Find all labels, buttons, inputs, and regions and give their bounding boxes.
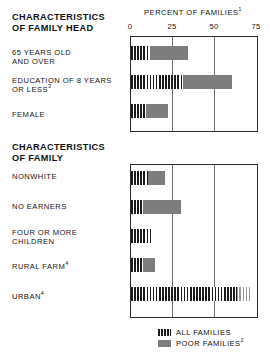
tick-label-50: 50 [209,22,218,31]
panel-1-heading-line-1: CHARACTERISTICS [0,12,126,23]
panel-1-plot-area [130,36,258,132]
row-label-65-years-old: 65 YEARS OLD AND OVER [12,48,126,66]
row-label-line-1: NO EARNERS [12,202,126,211]
row-label-line-1: URBAN4 [12,292,126,301]
legend-item-poor-families: POOR FAMILIES2 [158,338,244,348]
panel-1-heading: CHARACTERISTICS OF FAMILY HEAD [0,12,126,33]
row-label-line-1: 65 YEARS OLD [12,48,126,57]
row-label-rural-farm: RURAL FARM4 [12,262,126,271]
row-label-line-1: NONWHITE [12,172,126,181]
bar-all-families [131,258,143,272]
row-label-urban: URBAN4 [12,292,126,301]
row-label-line-1: RURAL FARM4 [12,262,126,271]
legend-label-poor-families: POOR FAMILIES2 [176,339,244,348]
row-label-education-8-years: EDUCATION OF 8 YEARS OR LESS3 [12,76,126,94]
panel-2-plot-area [130,164,258,318]
row-label-line-1: FEMALE [12,110,126,119]
panel-2-heading-line-1: CHARACTERISTICS [0,142,126,153]
bar-all-families [131,200,143,214]
axis-title-footnote: 1 [239,6,242,12]
bar-all-families [131,171,148,185]
panel-2-heading-line-2: OF FAMILY [0,153,126,164]
row-label-nonwhite: NONWHITE [12,172,126,181]
bar-all-families-overlap [131,287,237,301]
row-label-footnote: 4 [41,290,44,296]
bar-all-families [131,75,183,89]
tick-label-25: 25 [167,22,176,31]
row-label-footnote: 4 [65,260,68,266]
chart-container: PERCENT OF FAMILIES1 0 25 50 75 CHARACTE… [0,0,270,360]
legend-item-all-families: ALL FAMILIES [158,327,244,337]
row-label-line-2: AND OVER [12,57,126,66]
row-label-line-2: CHILDREN [12,237,126,246]
row-label-female: FEMALE [12,110,126,119]
row-label-line-1: FOUR OR MORE [12,228,126,237]
x-axis-tick-labels: 0 25 50 75 [130,22,256,32]
row-label-footnote: 3 [48,84,51,90]
row-label-line-1: EDUCATION OF 8 YEARS [12,76,126,85]
tick-label-0: 0 [128,22,133,31]
row-label-four-or-more-children: FOUR OR MORE CHILDREN [12,228,126,246]
legend-footnote: 2 [241,337,244,343]
bar-all-families [131,104,146,118]
row-label-no-earners: NO EARNERS [12,202,126,211]
panel-1-heading-line-2: OF FAMILY HEAD [0,23,126,34]
row-label-line-2: OR LESS3 [12,85,126,94]
chart-axis-title: PERCENT OF FAMILIES1 [130,8,256,17]
panel-2-heading: CHARACTERISTICS OF FAMILY [0,142,126,163]
legend-label-all-families: ALL FAMILIES [176,328,231,337]
legend-swatch-striped-icon [158,329,171,336]
chart-legend: ALL FAMILIES POOR FAMILIES2 [158,327,244,349]
axis-title-text: PERCENT OF FAMILIES [144,8,239,17]
bar-all-families [131,46,150,60]
bar-all-families [131,229,151,243]
legend-swatch-solid-icon [158,340,171,347]
tick-label-75: 75 [251,22,260,31]
